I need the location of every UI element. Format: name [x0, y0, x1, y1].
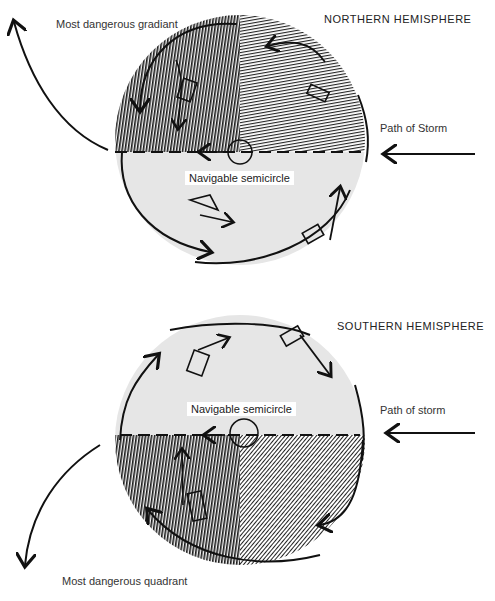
dangerous-semicircle-south [240, 435, 370, 575]
label-navigable-semicircle-north: Navigable semicircle [185, 171, 294, 185]
label-path-of-storm-north: Path of Storm [380, 122, 447, 134]
navigable-semicircle-north [115, 152, 365, 272]
dangerous-quadrant-south [110, 435, 240, 575]
title-northern-hemisphere: NORTHERN HEMISPHERE [324, 13, 471, 25]
dangerous-semicircle-north [240, 10, 370, 152]
label-navigable-semicircle-south: Navigable semicircle [187, 402, 296, 416]
northern-storm-circle [14, 10, 475, 272]
storm-diagram [0, 0, 495, 601]
label-path-of-storm-south: Path of storm [380, 404, 445, 416]
dangerous-quadrant-north [110, 10, 240, 152]
label-most-dangerous-quadrant: Most dangerous quadrant [62, 575, 187, 587]
southern-storm-circle [25, 310, 475, 575]
label-most-dangerous-gradient: Most dangerous gradiant [56, 18, 178, 30]
title-southern-hemisphere: SOUTHERN HEMISPHERE [337, 320, 484, 332]
